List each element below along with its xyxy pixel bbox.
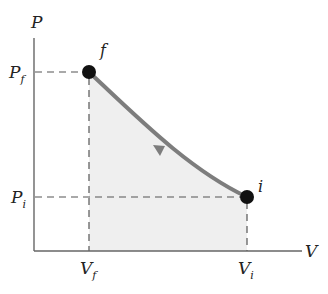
vf-label: Vf bbox=[80, 258, 98, 282]
v-axis-label: V bbox=[305, 241, 319, 261]
p-axis-label: P bbox=[30, 12, 43, 32]
point-f-label: f bbox=[99, 41, 109, 60]
pf-label: Pf bbox=[8, 62, 26, 86]
point-f bbox=[82, 65, 96, 79]
point-i bbox=[240, 190, 254, 204]
point-i-label: i bbox=[258, 177, 263, 196]
pi-label: Pi bbox=[10, 187, 26, 211]
work-area bbox=[89, 72, 247, 251]
pv-diagram: P V f i Pf Pi Vf Vi bbox=[0, 0, 328, 294]
vi-label: Vi bbox=[238, 258, 254, 282]
